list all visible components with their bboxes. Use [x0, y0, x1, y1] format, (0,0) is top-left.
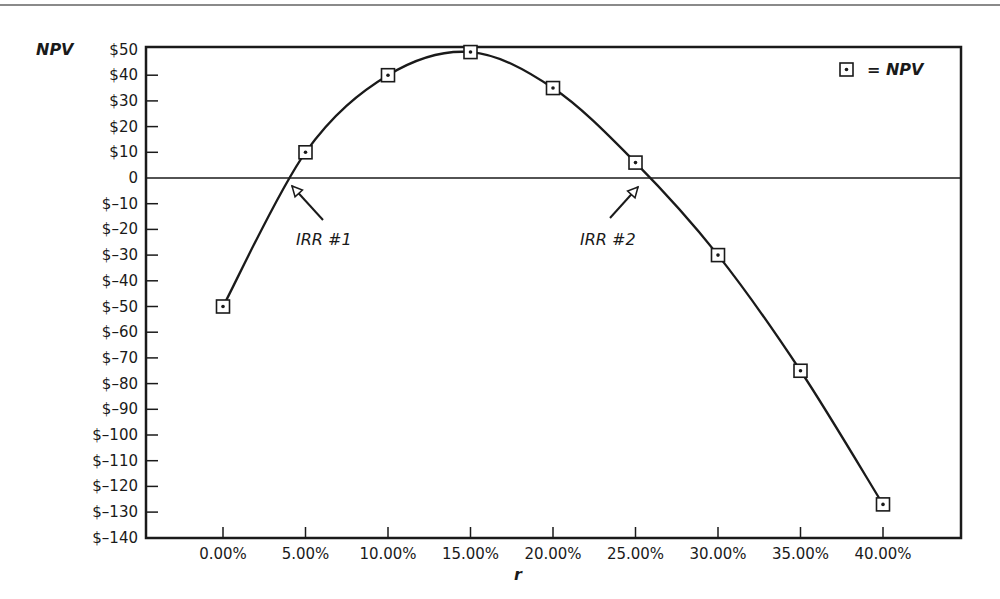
y-tick-label: $–10	[102, 195, 138, 213]
y-tick-label: $–110	[92, 452, 138, 470]
y-tick-label: $–40	[102, 272, 138, 290]
plot-border	[146, 47, 961, 538]
x-axis: 0.00%5.00%10.00%15.00%20.00%25.00%30.00%…	[199, 527, 911, 563]
marker-dot	[386, 73, 390, 77]
x-axis-title: r	[514, 565, 523, 584]
marker-dot	[304, 151, 308, 155]
plot-frame	[146, 47, 961, 538]
y-tick-label: $30	[109, 92, 138, 110]
marker-dot	[469, 50, 473, 54]
npv-point-marker	[794, 364, 807, 377]
legend: = NPV	[840, 60, 925, 79]
npv-point-marker	[712, 249, 725, 262]
npv-point-marker	[629, 156, 642, 169]
npv-point-marker	[464, 46, 477, 59]
x-tick-label: 15.00%	[442, 545, 499, 563]
legend-marker-dot	[845, 68, 849, 72]
irr1-label: IRR #1	[296, 230, 352, 249]
y-tick-label: $–90	[102, 400, 138, 418]
npv-point-marker	[217, 300, 230, 313]
marker-dot	[221, 305, 225, 309]
y-tick-label: $–80	[102, 375, 138, 393]
irr-annotations: IRR #1IRR #2	[292, 186, 638, 249]
irr2-label: IRR #2	[580, 230, 636, 249]
npv-point-marker	[299, 146, 312, 159]
y-tick-label: $20	[109, 118, 138, 136]
npv-point-marker	[547, 82, 560, 95]
y-tick-label: $–20	[102, 220, 138, 238]
npv-line	[223, 52, 883, 505]
y-tick-label: $40	[109, 66, 138, 84]
x-tick-label: 25.00%	[607, 545, 664, 563]
y-tick-label: $–120	[92, 477, 138, 495]
legend-label: = NPV	[867, 60, 925, 79]
x-tick-label: 30.00%	[689, 545, 746, 563]
npv-point-marker	[382, 69, 395, 82]
npv-point-marker	[877, 498, 890, 511]
marker-dot	[634, 161, 638, 165]
y-tick-label: $–50	[102, 298, 138, 316]
npv-profile-chart: $50$40$30$20$100$–10$–20$–30$–40$–50$–60…	[0, 0, 1000, 599]
y-axis: $50$40$30$20$100$–10$–20$–30$–40$–50$–60…	[92, 41, 158, 547]
x-tick-label: 35.00%	[772, 545, 829, 563]
marker-dot	[716, 253, 720, 257]
y-tick-label: $10	[109, 143, 138, 161]
x-tick-label: 0.00%	[199, 545, 247, 563]
y-tick-label: $50	[109, 41, 138, 59]
marker-dot	[799, 369, 803, 373]
y-tick-label: $–100	[92, 426, 138, 444]
y-tick-label: 0	[128, 169, 138, 187]
x-tick-label: 5.00%	[282, 545, 330, 563]
x-tick-label: 20.00%	[524, 545, 581, 563]
y-tick-label: $–130	[92, 503, 138, 521]
y-tick-label: $–140	[92, 529, 138, 547]
y-tick-label: $–70	[102, 349, 138, 367]
npv-markers	[217, 46, 890, 511]
x-tick-label: 10.00%	[359, 545, 416, 563]
x-tick-label: 40.00%	[854, 545, 911, 563]
y-tick-label: $–30	[102, 246, 138, 264]
marker-dot	[551, 86, 555, 90]
npv-curve	[223, 52, 883, 505]
y-tick-label: $–60	[102, 323, 138, 341]
marker-dot	[881, 503, 885, 507]
y-axis-title: NPV	[36, 40, 75, 59]
